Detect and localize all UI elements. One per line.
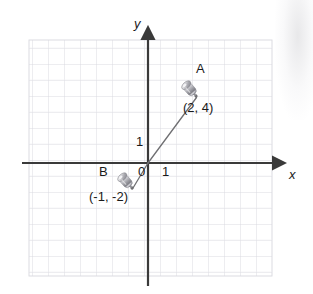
point-a-label: A <box>196 62 205 75</box>
point-b-label: B <box>99 165 108 178</box>
grid <box>29 40 272 276</box>
y-axis-label: y <box>134 17 141 30</box>
coordinate-plane-figure: y x 0 1 1 A (2, 4) B (-1, -2) <box>0 0 313 294</box>
origin-label: 0 <box>138 165 145 178</box>
plot-canvas <box>0 0 313 294</box>
x-unit-tick-label: 1 <box>162 165 169 178</box>
point-b-coordinates: (-1, -2) <box>89 190 128 203</box>
y-unit-tick-label: 1 <box>136 135 143 148</box>
x-axis-label: x <box>289 168 296 181</box>
point-a-coordinates: (2, 4) <box>183 101 213 114</box>
